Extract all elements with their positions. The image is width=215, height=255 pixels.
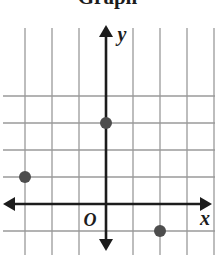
y-axis-arrow-down xyxy=(99,239,113,251)
graph-screenshot: Graph yxO xyxy=(0,0,215,255)
coordinate-plane-svg: yxO xyxy=(0,0,215,255)
x-axis-arrow-left xyxy=(3,197,15,211)
y-axis-label: y xyxy=(116,23,127,46)
coordinate-plane: yxO xyxy=(0,0,215,255)
grid-lines-horizontal xyxy=(3,96,215,231)
plotted-point[interactable] xyxy=(100,117,112,129)
plotted-point[interactable] xyxy=(19,171,31,183)
y-axis-arrow-up xyxy=(99,25,113,37)
x-axis-label: x xyxy=(199,207,210,229)
axes xyxy=(3,25,212,251)
origin-label: O xyxy=(84,210,97,230)
plotted-point[interactable] xyxy=(154,225,166,237)
